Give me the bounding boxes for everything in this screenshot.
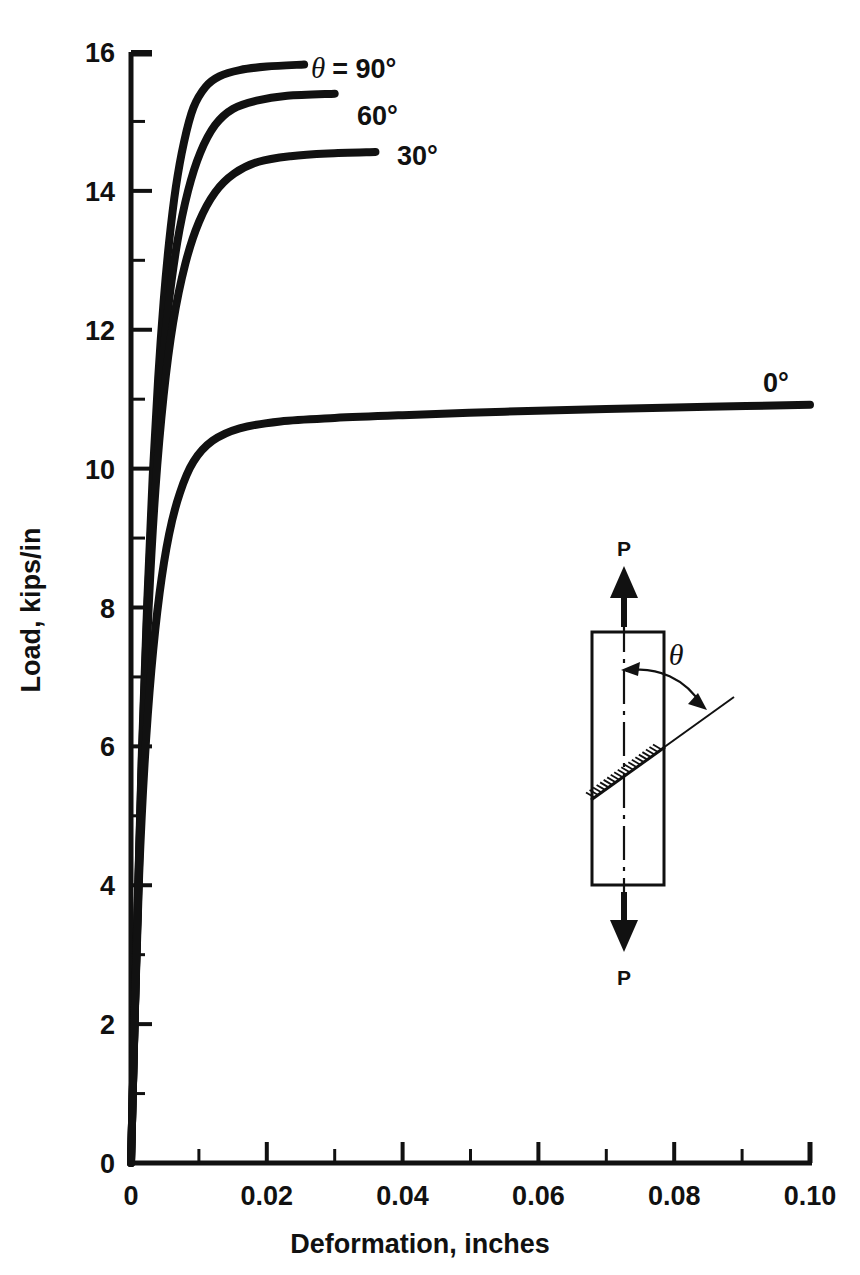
axis-lines [131,52,812,1163]
series-label-30: 30° [397,141,438,171]
x-tick-label: 0 [123,1181,138,1211]
y-tick-label: 6 [100,732,115,762]
chart-series-group [131,65,810,1164]
series-label-90-text: = 90° [332,54,396,84]
x-axis-ticks [131,1142,810,1163]
series-label-0: 0° [763,368,789,398]
x-axis-tick-labels: 00.020.040.060.080.10 [123,1181,836,1211]
y-tick-label: 12 [85,316,115,346]
x-tick-label: 0.02 [241,1181,294,1211]
angle-arrowhead-right [688,693,707,710]
x-axis-title: Deformation, inches [290,1229,550,1259]
y-tick-label: 16 [85,38,115,68]
down-arrow-icon [610,892,638,952]
inset-angle-label: θ [669,638,684,671]
y-axis-title: Load, kips/in [16,527,46,692]
y-tick-label: 10 [85,455,115,485]
chart-svg: 0246810121416 00.020.040.060.080.10 θ= 9… [0,0,860,1275]
y-tick-label: 4 [100,871,115,901]
specimen-diagram: P θ [586,537,734,989]
x-tick-label: 0.10 [784,1181,837,1211]
series-curve-3 [131,405,810,1163]
y-tick-label: 0 [100,1149,115,1179]
inset-load-label-top: P [617,537,631,560]
up-arrow-icon [610,566,638,627]
series-labels: θ= 90° 60° 30° 0° [311,52,789,398]
x-tick-label: 0.04 [376,1181,429,1211]
y-tick-label: 8 [100,594,115,624]
inset-load-label-bottom: P [617,966,631,989]
series-label-90: θ= 90° [311,52,396,84]
y-tick-label: 14 [85,177,115,207]
y-tick-label: 2 [100,1010,115,1040]
y-axis-tick-labels: 0246810121416 [85,38,115,1179]
x-tick-label: 0.08 [648,1181,701,1211]
series-label-60: 60° [357,101,398,131]
x-tick-label: 0.06 [512,1181,565,1211]
series-curve-1 [131,94,335,1163]
figure-container: 0246810121416 00.020.040.060.080.10 θ= 9… [0,0,860,1275]
